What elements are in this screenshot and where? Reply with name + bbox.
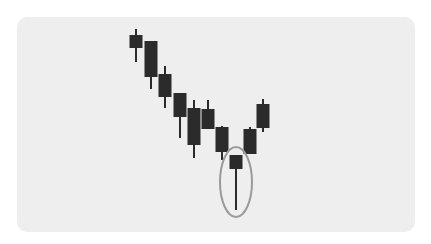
candle: [202, 100, 215, 129]
candle: [130, 29, 143, 62]
candle-body: [174, 93, 187, 117]
candle: [174, 93, 187, 138]
candle: [188, 100, 201, 158]
candle: [145, 41, 158, 89]
candle: [257, 99, 270, 132]
candle: [244, 127, 257, 154]
candle-body: [244, 129, 257, 154]
candle-body: [188, 108, 201, 145]
candle-body: [130, 35, 143, 48]
candle: [230, 155, 243, 210]
candle-body: [159, 74, 172, 97]
candle-body: [145, 41, 158, 77]
candle-body: [202, 109, 215, 129]
candle-body: [230, 155, 243, 169]
candle-body: [216, 127, 229, 152]
candlestick-chart: [0, 0, 431, 244]
candle: [159, 66, 172, 108]
candle-body: [257, 104, 270, 128]
